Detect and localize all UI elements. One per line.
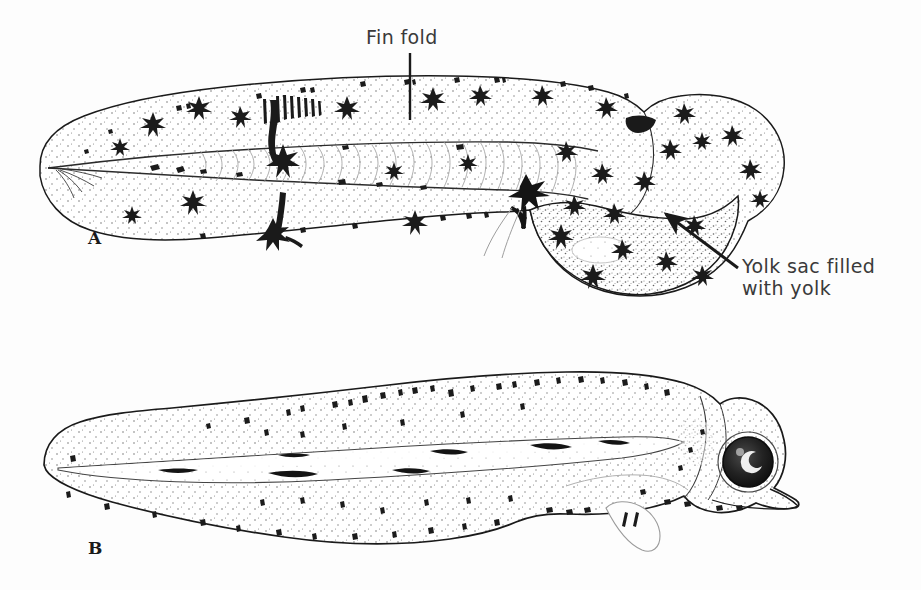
figure-illustration: Fin fold Yolk sac filled with yolk A B xyxy=(0,0,921,590)
panel-letter-a: A xyxy=(88,228,101,248)
larva-b-eye-highlight xyxy=(736,448,744,456)
panel-b-larva xyxy=(44,372,799,551)
panel-a-larva xyxy=(40,76,784,296)
larva-b-pectoral-fin xyxy=(606,502,660,552)
label-fin-fold: Fin fold xyxy=(366,26,438,48)
panel-letter-b: B xyxy=(88,538,102,558)
larva-a-gut-2 xyxy=(502,210,520,258)
label-yolk-sac: Yolk sac filled with yolk xyxy=(742,255,875,300)
